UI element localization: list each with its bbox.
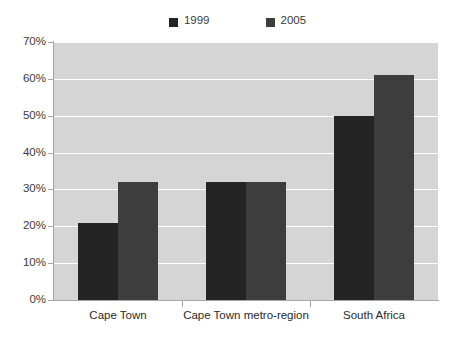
y-axis-tick [48,153,53,154]
y-axis-labels: 70%60%50%40%30%20%10%0% [0,0,46,341]
y-axis-tick-label: 60% [2,73,46,85]
y-axis-tick [48,226,53,227]
category-separator [310,301,311,307]
x-axis-label-south-africa: South Africa [310,310,438,322]
bar-1999-cape-town [78,223,118,300]
y-axis-tick-label: 0% [2,294,46,306]
x-axis-label-cape-town: Cape Town [54,310,182,322]
y-axis-tick [48,300,53,301]
bar-2005-cape-town-metro-region [246,182,286,300]
y-axis-tick-label: 20% [2,221,46,233]
category-separator [182,301,183,307]
bar-2005-south-africa [374,75,414,300]
legend-label-2005: 2005 [281,15,307,27]
y-axis-tick-label: 50% [2,110,46,122]
y-axis-tick [48,79,53,80]
legend-swatch-1999 [169,18,178,27]
y-axis-tick-label: 40% [2,147,46,159]
y-axis-line [53,41,54,301]
legend-swatch-2005 [266,18,275,27]
legend-entry-2005: 2005 [266,15,307,27]
bar-2005-cape-town [118,182,158,300]
y-axis-tick-label: 30% [2,184,46,196]
y-axis-tick [48,116,53,117]
legend-label-1999: 1999 [184,15,210,27]
y-axis-tick [48,263,53,264]
y-axis-tick [48,189,53,190]
y-axis-tick [48,42,53,43]
x-axis-line [53,300,439,301]
chart-legend: 1999 2005 [0,10,451,32]
y-axis-tick-label: 70% [2,36,46,48]
bar-1999-south-africa [334,116,374,300]
legend-entry-1999: 1999 [169,15,210,27]
x-axis-label-cape-town-metro-region: Cape Town metro-region [182,310,310,322]
plot-area [54,42,438,300]
bar-chart: 1999 2005 70%60%50%40%30%20%10%0% Cape T… [0,0,451,341]
bar-1999-cape-town-metro-region [206,182,246,300]
y-axis-tick-label: 10% [2,257,46,269]
gridline [54,42,438,43]
